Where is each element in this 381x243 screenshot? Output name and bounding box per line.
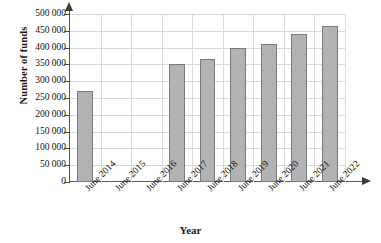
gridline-vertical [223,14,224,182]
y-axis-tick-label: 200 000 [0,109,66,119]
y-axis-tick-label: 0 [0,176,66,186]
gridline-vertical [284,14,285,182]
x-axis-arrow-icon [362,177,371,185]
gridline-vertical [253,14,254,182]
y-axis-tick-label: 150 000 [0,126,66,136]
gridline-vertical [101,14,102,182]
y-axis-tick-label: 100 000 [0,142,66,152]
gridline-vertical [131,14,132,182]
bar-chart-figure: Number of funds 050 000100 000150 000200… [0,0,381,243]
y-axis-tick-label: 350 000 [0,58,66,68]
y-axis-tick-label: 500 000 [0,8,66,18]
gridline-vertical [345,14,346,182]
y-axis-tick-label: 50 000 [0,159,66,169]
gridline-vertical [192,14,193,182]
x-axis-title: Year [0,224,381,236]
y-axis-arrow-icon [65,2,73,11]
plot-area [70,14,345,182]
y-axis-tick-mark [64,182,70,183]
y-axis-title: Number of funds [18,0,29,141]
gridline-vertical [162,14,163,182]
gridline-horizontal [70,14,345,15]
y-axis-tick-label: 400 000 [0,42,66,52]
bar [77,91,93,182]
y-axis-tick-label: 450 000 [0,25,66,35]
gridline-horizontal [70,31,345,32]
y-axis-tick-label: 250 000 [0,92,66,102]
gridline-vertical [314,14,315,182]
y-axis-tick-label: 300 000 [0,75,66,85]
